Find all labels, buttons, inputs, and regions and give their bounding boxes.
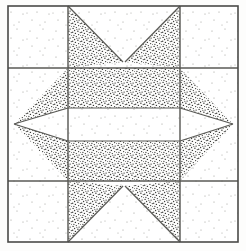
corner-square-top-left — [8, 6, 68, 68]
block-row-middle — [8, 68, 238, 181]
quilt-block-page: sawtooth-star-block Sawtooth Star quilt … — [0, 0, 246, 251]
corner-square-bottom-right — [180, 181, 238, 242]
center-white-band — [68, 108, 180, 141]
corner-square-top-right — [180, 6, 238, 68]
block-row-top — [8, 6, 238, 68]
center-lower-band — [68, 141, 180, 181]
corner-square-bottom-left — [8, 181, 68, 242]
quilt-block-diagram — [0, 0, 246, 251]
center-upper-band — [68, 68, 180, 108]
block-row-bottom — [8, 181, 238, 242]
